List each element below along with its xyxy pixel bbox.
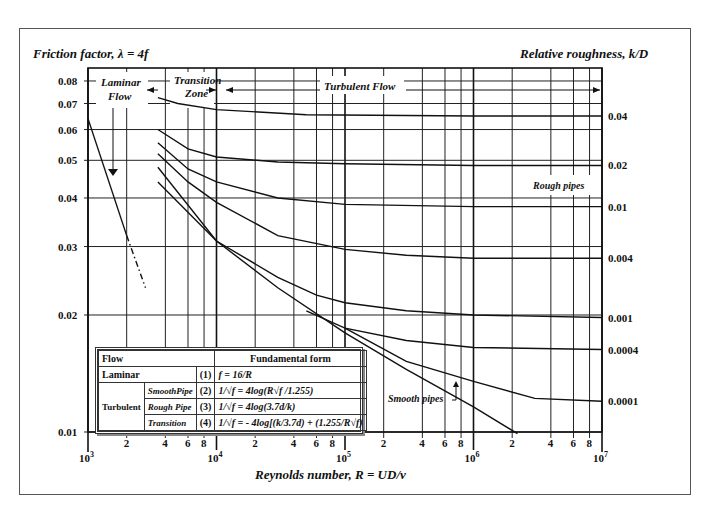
x-minor-tick-label: 8 <box>330 437 336 449</box>
y-tick-label: 0.05 <box>58 154 78 166</box>
eq-formula: 1/√f = - 4log[(k/3.7d) + (1.255/R√f) <box>215 415 366 431</box>
y-tick-label: 0.02 <box>58 309 78 321</box>
x-minor-tick-label: 2 <box>509 437 515 449</box>
row-sub-label: SmoothPipe <box>144 383 196 399</box>
table-header-flow: Flow <box>99 351 215 367</box>
eq-formula: 1/√f = 4log(3.7d/k) <box>215 399 366 415</box>
x-tick-label: 106 <box>465 450 480 464</box>
x-tick-label: 103 <box>79 450 94 464</box>
eq-number: (2) <box>196 383 215 399</box>
smooth-pipes-label: Smooth pipes <box>388 393 443 404</box>
x-minor-tick-label: 8 <box>458 437 464 449</box>
transition-zone-label: Transition <box>174 74 221 86</box>
x-minor-tick-label: 8 <box>587 437 593 449</box>
y-tick-label: 0.07 <box>58 98 78 110</box>
x-minor-tick-label: 6 <box>185 437 191 449</box>
eq-number: (3) <box>196 399 215 415</box>
smooth-pointer <box>452 386 456 400</box>
roughness-label: 0.01 <box>608 201 627 213</box>
turbulent-right-arrow-icon <box>593 87 600 93</box>
curve-k-d-0-01 <box>158 143 602 207</box>
roughness-label: 0.0004 <box>608 344 639 356</box>
x-minor-tick-label: 2 <box>381 437 387 449</box>
x-tick-label: 107 <box>593 450 608 464</box>
roughness-label: 0.02 <box>608 159 628 171</box>
x-minor-tick-label: 4 <box>291 437 297 449</box>
roughness-label: 0.0001 <box>608 395 638 407</box>
table-header-form: Fundamental form <box>215 351 366 367</box>
y-tick-label: 0.03 <box>58 241 78 253</box>
x-minor-tick-label: 4 <box>419 437 425 449</box>
x-minor-tick-label: 4 <box>548 437 554 449</box>
roughness-label: 0.004 <box>608 252 633 264</box>
row-sub-label: Rough Pipe <box>144 399 196 415</box>
transition-zone-label: Zone <box>184 87 208 99</box>
x-minor-tick-label: 8 <box>201 437 207 449</box>
rough-pipes-label: Rough pipes <box>532 180 585 191</box>
x-tick-label: 105 <box>336 450 351 464</box>
curve-laminar-extension- <box>127 236 146 288</box>
row-sub-label: Transition <box>144 415 196 431</box>
eq-number: (1) <box>196 367 215 383</box>
x-minor-tick-label: 6 <box>570 437 576 449</box>
y-tick-label: 0.04 <box>58 192 78 204</box>
roughness-label: 0.04 <box>608 110 628 122</box>
roughness-label: 0.001 <box>608 312 633 324</box>
turbulent-left-arrow-icon <box>226 87 233 93</box>
transition-left-arrow-icon <box>147 87 154 93</box>
x-tick-label: 104 <box>208 450 223 464</box>
curve-k-d-0-04 <box>158 98 602 116</box>
eq-formula: 1/√f = 4log(R√f /1.255) <box>215 383 366 399</box>
turbulent-label: Turbulent <box>99 383 145 431</box>
eq-formula: f = 16/R <box>215 367 366 383</box>
x-minor-tick-label: 4 <box>162 437 168 449</box>
x-minor-tick-label: 2 <box>252 437 258 449</box>
y-tick-label: 0.08 <box>58 75 78 87</box>
laminar-arrow-icon <box>108 169 118 176</box>
x-minor-tick-label: 6 <box>442 437 448 449</box>
formula-table: Flow Fundamental form Laminar (1) f = 16… <box>95 347 363 434</box>
laminar-zone-label: Laminar <box>100 76 141 88</box>
eq-number: (4) <box>196 415 215 431</box>
y-tick-label: 0.01 <box>58 426 77 438</box>
smooth-pointer-arrow-icon <box>453 381 459 387</box>
turbulent-zone-label: Turbulent Flow <box>324 80 396 92</box>
x-minor-tick-label: 2 <box>124 437 130 449</box>
laminar-zone-label: Flow <box>107 90 132 102</box>
curve-laminar <box>88 119 127 236</box>
x-minor-tick-label: 6 <box>313 437 319 449</box>
laminar-label: Laminar <box>99 367 197 383</box>
y-tick-label: 0.06 <box>58 124 78 136</box>
